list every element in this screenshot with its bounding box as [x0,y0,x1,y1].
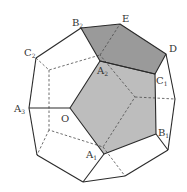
label-E: E [122,13,129,24]
label-A3: A3 [13,103,25,115]
label-A1: A1 [85,149,97,161]
shaded-face-front [70,61,156,154]
label-B1: B1 [158,127,169,139]
label-D: D [169,43,177,54]
label-O: O [61,113,69,124]
label-C1: C1 [156,75,167,87]
label-C2: C2 [24,47,36,59]
label-B2: B2 [72,17,83,29]
polyhedron-diagram: B2 E C2 D A2 C1 A3 O B1 A1 [0,0,187,192]
